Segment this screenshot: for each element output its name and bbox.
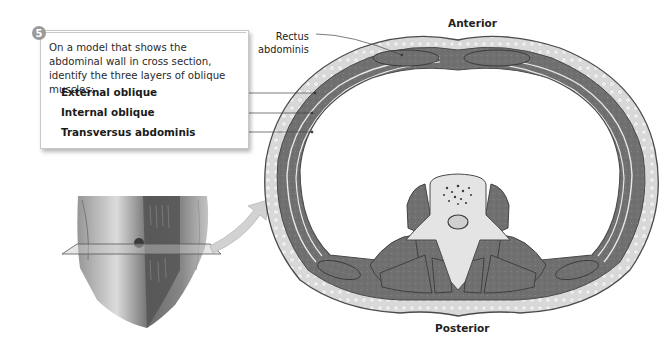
rectus-label-line2: abdominis <box>258 43 309 56</box>
term-internal-oblique: Internal oblique <box>61 106 155 118</box>
step-number-badge: 5 <box>32 26 46 40</box>
badge-divider <box>46 32 246 33</box>
anterior-label: Anterior <box>448 17 497 29</box>
torso-illustration <box>62 196 221 328</box>
section-plane <box>62 244 221 254</box>
arrow-icon <box>210 200 268 253</box>
abdominal-cross-section <box>265 36 659 316</box>
spinal-cord <box>448 215 468 229</box>
term-external-oblique: External oblique <box>61 86 157 98</box>
rectus-label-line1: Rectus <box>258 30 309 43</box>
posterior-label: Posterior <box>435 322 489 334</box>
term-transversus-abdominis: Transversus abdominis <box>61 126 196 138</box>
rectus-abdominis-label: Rectus abdominis <box>258 30 309 56</box>
